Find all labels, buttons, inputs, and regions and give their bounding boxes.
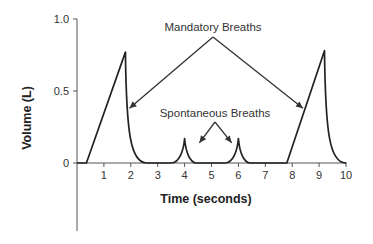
x-tick-label: 7 (262, 169, 268, 181)
x-axis-title: Time (seconds) (160, 192, 251, 206)
x-tick-label: 10 (340, 169, 352, 181)
x-tick-label: 6 (235, 169, 241, 181)
x-tick-label: 5 (208, 169, 214, 181)
x-tick-label: 4 (182, 169, 188, 181)
annotations: Mandatory BreathsSpontaneous Breaths (129, 21, 303, 143)
ticks: 1234567891000.51.0 (54, 13, 352, 181)
x-tick-label: 3 (155, 169, 161, 181)
annotation-label: Spontaneous Breaths (160, 107, 271, 119)
x-tick-label: 1 (101, 169, 107, 181)
volume-time-chart: 1234567891000.51.0 Mandatory BreathsSpon… (0, 0, 373, 244)
x-tick-label: 8 (289, 169, 295, 181)
y-tick-label: 0.5 (54, 85, 69, 97)
y-axis-title: Volume (L) (20, 86, 34, 150)
arrow-head (199, 135, 206, 143)
x-tick-label: 9 (316, 169, 322, 181)
x-tick-label: 2 (128, 169, 134, 181)
annotation-label: Mandatory Breaths (164, 21, 261, 33)
y-tick-label: 0 (63, 157, 69, 169)
annotation-arrow (213, 37, 303, 108)
y-tick-label: 1.0 (54, 13, 69, 25)
annotation-arrow (129, 37, 213, 108)
